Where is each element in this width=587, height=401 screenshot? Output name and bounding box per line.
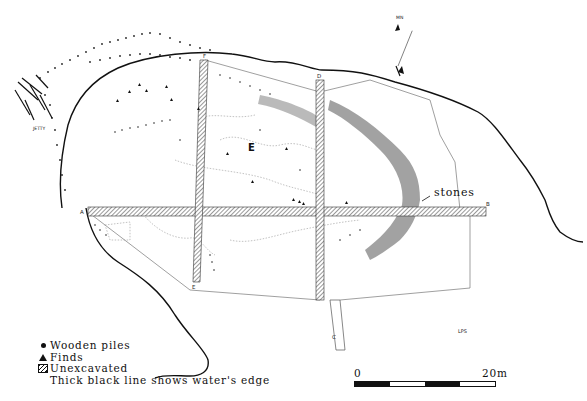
scale-bar-segments bbox=[354, 381, 496, 387]
endpoint-b: B bbox=[486, 201, 490, 207]
scale-segment bbox=[355, 382, 390, 386]
scale-segment bbox=[390, 382, 425, 386]
trench-A-B bbox=[88, 207, 486, 216]
corner-note: LPS bbox=[458, 328, 467, 334]
endpoint-f: F bbox=[203, 53, 206, 59]
legend-item-unexcavated: Unexcavated bbox=[36, 363, 270, 375]
legend-note: Thick black line shows water's edge bbox=[36, 375, 270, 387]
legend-label: Wooden piles bbox=[50, 340, 130, 352]
pile-dots-outer-shore bbox=[39, 32, 211, 191]
trenches bbox=[88, 60, 486, 300]
endpoint-e: E bbox=[192, 284, 196, 290]
trench-F-E bbox=[193, 60, 208, 282]
stones-area bbox=[258, 95, 420, 260]
scale-bar: 0 20m bbox=[354, 367, 514, 387]
endpoint-a: A bbox=[80, 209, 84, 215]
legend-note-text: Thick black line shows water's edge bbox=[50, 375, 270, 387]
scale-segment bbox=[460, 382, 495, 386]
trench-C-extension bbox=[330, 300, 345, 350]
scale-start-label: 0 bbox=[354, 367, 361, 379]
area-label-e: E bbox=[248, 142, 255, 153]
north-arrow-icon bbox=[395, 24, 414, 76]
jetty-structure bbox=[15, 75, 52, 120]
scale-segment bbox=[425, 382, 460, 386]
endpoint-d: D bbox=[317, 73, 321, 79]
finds-markers bbox=[116, 83, 348, 205]
triangle-icon bbox=[36, 354, 50, 361]
stones-pointer bbox=[422, 196, 430, 201]
legend: Wooden piles Finds Unexcavated Thick bla… bbox=[36, 340, 270, 386]
dot-icon bbox=[36, 343, 50, 348]
north-arrow-label: MN bbox=[396, 15, 403, 20]
hatch-icon bbox=[36, 364, 50, 373]
trench-D-C bbox=[316, 80, 324, 300]
stones-label: stones bbox=[434, 186, 475, 199]
scale-end-label: 20m bbox=[482, 367, 508, 379]
jetty-label: JETTY bbox=[32, 126, 46, 131]
legend-item-wooden-piles: Wooden piles bbox=[36, 340, 270, 352]
legend-label: Unexcavated bbox=[50, 363, 128, 375]
endpoint-c: C bbox=[332, 334, 336, 340]
